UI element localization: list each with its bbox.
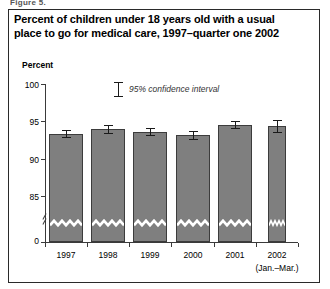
- bar-break-zigzag-icon: [92, 219, 124, 228]
- error-bar-cap-bottom-1998: [104, 133, 113, 134]
- error-bar-cap-top-2002: [273, 120, 282, 121]
- x-tick-2: [129, 243, 130, 247]
- y-tick-label-85: 85: [17, 192, 39, 202]
- y-tick-label-0: 0: [17, 236, 39, 246]
- error-bar-cap-top-1998: [104, 125, 113, 126]
- error-bar-cap-bottom-2000: [189, 139, 198, 140]
- x-tick-6: [298, 243, 299, 247]
- x-label-1997: 1997: [44, 250, 88, 260]
- bar-1998: [91, 129, 125, 242]
- bar-break-zigzag-icon: [219, 219, 251, 228]
- bar-2000: [176, 135, 210, 242]
- y-tick-90: [41, 159, 46, 160]
- error-bar-cap-top-1997: [62, 130, 71, 131]
- y-tick-label-90: 90: [17, 155, 39, 165]
- bar-break-zigzag-icon: [50, 219, 82, 228]
- x-tick-0: [45, 243, 46, 247]
- figure-panel: Figure 5. Percent of children under 18 y…: [0, 0, 330, 289]
- error-bar-icon: [118, 82, 119, 96]
- x-tick-4: [214, 243, 215, 247]
- y-tick-label-100: 100: [17, 80, 39, 90]
- bar-break-zigzag-icon: [269, 219, 285, 228]
- error-bar-cap-bottom-1997: [62, 137, 71, 138]
- error-bar-cap-top-2001: [231, 121, 240, 122]
- y-tick-label-95: 95: [17, 117, 39, 127]
- y-tick-95: [41, 121, 46, 122]
- bar-1999: [133, 132, 167, 242]
- y-tick-100: [41, 84, 46, 85]
- x-sublabel-2002: (Jan.–Mar.): [248, 263, 306, 273]
- bar-2002: [268, 126, 286, 242]
- error-bar-2001: [235, 121, 236, 128]
- x-tick-5: [256, 243, 257, 247]
- x-label-2002: 2002: [255, 250, 299, 260]
- bar-2001: [218, 125, 252, 242]
- error-bar-cap-top-icon: [114, 82, 123, 83]
- y-tick-85: [41, 196, 46, 197]
- bar-break-zigzag-icon: [134, 219, 166, 228]
- error-bar-1997: [66, 130, 67, 137]
- error-bar-cap-top-2000: [189, 131, 198, 132]
- x-label-2001: 2001: [213, 250, 257, 260]
- error-bar-cap-bottom-icon: [114, 96, 123, 97]
- error-bar-cap-bottom-2001: [231, 128, 240, 129]
- error-bar-2002: [277, 120, 278, 132]
- error-bar-2000: [193, 131, 194, 139]
- bar-break-zigzag-icon: [177, 219, 209, 228]
- chart-title: Percent of children under 18 years old w…: [14, 12, 292, 40]
- bar-1997: [49, 134, 83, 242]
- x-label-2000: 2000: [171, 250, 215, 260]
- error-bar-1999: [150, 128, 151, 135]
- x-tick-3: [171, 243, 172, 247]
- x-label-1999: 1999: [128, 250, 172, 260]
- error-bar-cap-bottom-1999: [146, 135, 155, 136]
- error-bar-cap-bottom-2002: [273, 132, 282, 133]
- error-bar-1998: [108, 125, 109, 133]
- x-label-1998: 1998: [86, 250, 130, 260]
- x-tick-1: [87, 243, 88, 247]
- y-axis-tick-labels: 100 95 90 85 0: [13, 0, 39, 289]
- legend-label: 95% confidence interval: [129, 84, 219, 94]
- error-bar-cap-top-1999: [146, 128, 155, 129]
